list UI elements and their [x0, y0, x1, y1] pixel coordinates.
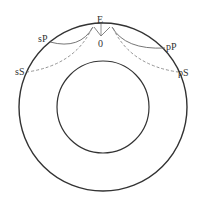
label-epicenter: E [97, 14, 103, 25]
label-pS: pS [178, 67, 189, 78]
earth-core [57, 61, 149, 153]
earth-diagram: E 0 sP sS pP pS [0, 0, 208, 200]
label-pP: pP [166, 41, 177, 52]
label-sP: sP [38, 33, 48, 44]
label-hypocenter: 0 [98, 38, 103, 49]
hypocenter-rays [94, 27, 110, 36]
label-sS: sS [15, 66, 24, 77]
